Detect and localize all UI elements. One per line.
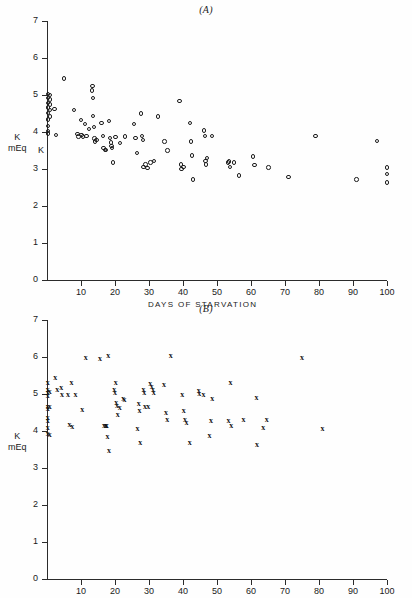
data-point	[181, 165, 185, 169]
data-point	[113, 135, 117, 139]
x-tick-label: 10	[70, 287, 92, 297]
data-point	[286, 175, 290, 179]
data-point	[228, 165, 232, 169]
data-point: x	[164, 416, 170, 424]
data-point	[191, 177, 195, 181]
x-tick-label: 60	[240, 287, 262, 297]
y-tick-label: 0	[22, 573, 38, 583]
x-tick-label: 80	[308, 287, 330, 297]
data-point: x	[145, 403, 151, 411]
data-point: x	[97, 355, 103, 363]
data-point	[205, 156, 209, 160]
y-tick-label: 7	[22, 314, 38, 324]
data-point: x	[65, 391, 71, 399]
y-tick-label: 3	[22, 163, 38, 173]
data-point	[94, 138, 98, 142]
x-tick-label: 10	[70, 586, 92, 596]
y-axis-title-extra: K	[38, 145, 44, 155]
data-point	[210, 134, 214, 138]
x-tick-label: 70	[274, 586, 296, 596]
y-axis-title-line2: mEq	[8, 143, 27, 154]
data-point: x	[179, 391, 185, 399]
x-tick	[319, 281, 320, 286]
data-point	[84, 134, 88, 138]
data-point	[203, 134, 207, 138]
data-point: x	[241, 416, 247, 424]
x-tick-label: 90	[342, 586, 364, 596]
data-point: x	[151, 389, 157, 397]
data-point: x	[73, 391, 79, 399]
data-point	[266, 165, 270, 169]
data-point	[104, 148, 108, 152]
y-tick	[42, 58, 47, 59]
data-point	[107, 119, 111, 123]
x-tick	[115, 580, 116, 585]
data-point	[354, 177, 358, 181]
data-point	[99, 121, 103, 125]
data-point: x	[59, 391, 65, 399]
data-point: x	[113, 379, 119, 387]
x-tick-label: 20	[104, 287, 126, 297]
x-tick-label: 100	[376, 287, 398, 297]
data-point: x	[181, 407, 187, 415]
data-point: x	[105, 433, 111, 441]
x-tick	[251, 281, 252, 286]
y-tick-label: 2	[22, 499, 38, 509]
data-point	[90, 84, 94, 88]
data-point	[52, 107, 56, 111]
data-point	[135, 151, 139, 155]
x-tick-label: 30	[138, 586, 160, 596]
y-tick	[42, 468, 47, 469]
data-point: x	[260, 424, 266, 432]
data-point: x	[200, 391, 206, 399]
data-point: x	[253, 394, 259, 402]
data-point	[62, 76, 66, 80]
y-axis-title-line1: K	[8, 431, 27, 442]
y-tick-label: 3	[22, 462, 38, 472]
x-tick	[81, 580, 82, 585]
data-point: x	[112, 389, 118, 397]
data-point	[118, 141, 122, 145]
x-tick-label: 70	[274, 287, 296, 297]
y-tick-label: 2	[22, 200, 38, 210]
x-tick-label: 90	[342, 287, 364, 297]
x-tick-label: 40	[172, 586, 194, 596]
x-tick-label: 100	[376, 586, 398, 596]
data-point: x	[319, 425, 325, 433]
data-point: x	[187, 439, 193, 447]
y-tick-label: 5	[22, 89, 38, 99]
x-tick	[217, 281, 218, 286]
data-point: x	[52, 374, 58, 382]
data-point	[46, 131, 50, 135]
figure-container: (A) 01234567102030405060708090100DAYS OF…	[0, 0, 412, 598]
data-point	[313, 134, 317, 138]
data-point	[165, 148, 169, 152]
y-tick-label: 7	[22, 15, 38, 25]
data-point: x	[254, 441, 260, 449]
y-axis-title-line1: K	[8, 132, 27, 143]
data-point	[189, 139, 193, 143]
x-tick-label: 50	[206, 586, 228, 596]
data-point: x	[209, 395, 215, 403]
y-tick-label: 0	[22, 274, 38, 284]
y-tick-label: 6	[22, 52, 38, 62]
data-point: x	[207, 432, 213, 440]
data-point	[123, 134, 127, 138]
data-point	[251, 154, 255, 158]
y-axis-line	[47, 21, 48, 281]
data-point: x	[47, 403, 53, 411]
data-point: x	[106, 447, 112, 455]
data-point	[188, 121, 192, 125]
x-tick	[149, 281, 150, 286]
data-point: x	[183, 419, 189, 427]
data-point: x	[47, 431, 53, 439]
data-point	[132, 122, 136, 126]
data-point: x	[264, 416, 270, 424]
y-tick	[42, 280, 47, 281]
x-tick	[183, 281, 184, 286]
data-point	[141, 138, 145, 142]
data-point: x	[79, 406, 85, 414]
data-point: x	[68, 379, 74, 387]
data-point	[48, 97, 52, 101]
x-tick-label: 80	[308, 586, 330, 596]
